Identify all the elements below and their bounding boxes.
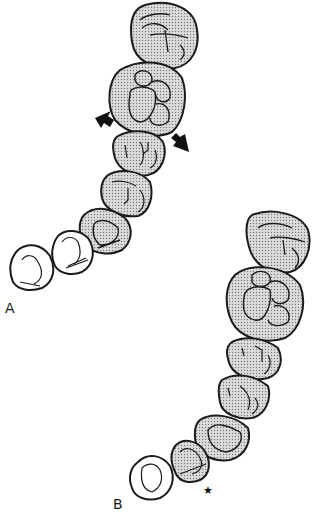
tooth-incisor-a2 <box>10 245 53 290</box>
dental-arch-diagram: A B ★ <box>0 0 323 514</box>
label-a: A <box>5 300 15 316</box>
label-b: B <box>113 496 123 512</box>
tooth-molar-b2 <box>227 267 303 341</box>
tooth-premolar-b1 <box>227 338 281 379</box>
tooth-molar-a1 <box>131 3 198 69</box>
arch-b <box>130 212 309 500</box>
arch-drawing <box>0 0 323 514</box>
tooth-premolar-a1 <box>113 131 165 175</box>
arch-a <box>10 3 197 290</box>
arrow-icon-right <box>171 133 189 152</box>
tooth-premolar-b2 <box>219 375 269 418</box>
tooth-incisor-b <box>130 456 173 500</box>
tooth-molar-a2 <box>109 62 185 135</box>
star-marker-icon: ★ <box>203 484 213 497</box>
tooth-molar-b1 <box>246 212 309 273</box>
